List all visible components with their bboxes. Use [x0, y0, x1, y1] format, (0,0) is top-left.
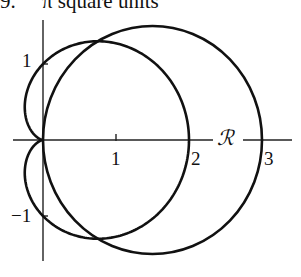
- y-label-neg1: −1: [11, 206, 31, 225]
- y-label-1: 1: [22, 51, 32, 70]
- polar-axis-label: ℛ: [217, 128, 234, 149]
- x-label-3: 3: [264, 149, 274, 168]
- x-label-2: 2: [191, 149, 201, 168]
- polar-graph: [0, 0, 301, 277]
- x-label-1: 1: [111, 149, 121, 168]
